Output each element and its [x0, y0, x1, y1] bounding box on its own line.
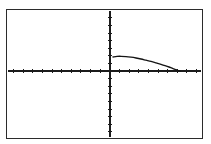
y-axis — [108, 11, 113, 137]
plot-canvas — [0, 0, 211, 144]
graph-viewport — [0, 0, 211, 144]
plot-curve — [113, 56, 180, 71]
x-axis — [8, 69, 201, 74]
